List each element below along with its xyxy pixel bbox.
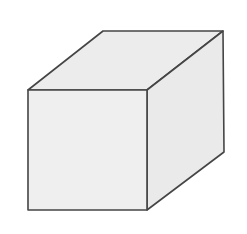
cube-diagram <box>0 0 247 234</box>
cube-front-face <box>28 90 147 210</box>
